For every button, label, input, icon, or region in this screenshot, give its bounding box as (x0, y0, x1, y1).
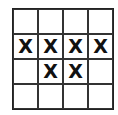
cell-r1c2 (38, 9, 63, 34)
cell-r4c1 (13, 84, 38, 109)
cell-r4c2 (38, 84, 63, 109)
cell-r1c1 (13, 9, 38, 34)
cell-r3c3: X (63, 59, 88, 84)
cell-r2c2: X (38, 34, 63, 59)
cell-r2c3: X (63, 34, 88, 59)
cell-r4c4 (88, 84, 113, 109)
cell-r2c4: X (88, 34, 113, 59)
cell-r3c1 (13, 59, 38, 84)
cell-r1c3 (63, 9, 88, 34)
cell-r4c3 (63, 84, 88, 109)
cell-r3c2: X (38, 59, 63, 84)
grid-4x4: X X X X X X (12, 8, 114, 110)
cell-r2c1: X (13, 34, 38, 59)
cell-r3c4 (88, 59, 113, 84)
cell-r1c4 (88, 9, 113, 34)
